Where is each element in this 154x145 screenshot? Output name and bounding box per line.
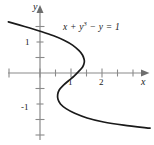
x-axis <box>8 69 150 78</box>
curve-x-plus-y-cubed-minus-y-equals-1 <box>8 22 150 128</box>
y-tick-label-negative-1: -1 <box>21 103 29 112</box>
y-axis-label: y <box>33 2 37 12</box>
x-tick-label-1: 1 <box>68 78 73 87</box>
x-tick-label-2: 2 <box>99 78 104 87</box>
equation-part-lhs: x + y <box>63 22 84 32</box>
equation-part-rhs: − y = 1 <box>87 22 120 32</box>
equation-annotation: x + y3 − y = 1 <box>63 23 120 33</box>
y-axis-arrowhead <box>37 5 44 13</box>
math-graph-figure: y x 1 -1 1 2 x + y3 − y = 1 <box>0 0 154 145</box>
y-tick-label-1: 1 <box>25 38 30 47</box>
x-axis-label: x <box>141 77 145 87</box>
